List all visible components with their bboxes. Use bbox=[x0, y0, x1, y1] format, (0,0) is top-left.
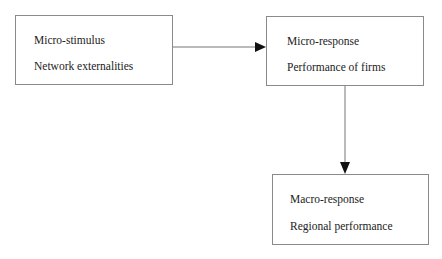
node-micro-stimulus: Micro-stimulus Network externalities bbox=[15, 15, 173, 85]
edge-response-to-macro bbox=[340, 85, 350, 174]
node-title: Macro-response bbox=[290, 193, 364, 205]
arrowhead-right-icon bbox=[255, 42, 266, 52]
node-title: Micro-response bbox=[287, 35, 359, 47]
node-macro-response: Macro-response Regional performance bbox=[272, 174, 429, 245]
node-micro-response: Micro-response Performance of firms bbox=[266, 16, 424, 86]
node-subtitle: Performance of firms bbox=[287, 61, 385, 73]
node-title: Micro-stimulus bbox=[34, 34, 105, 46]
node-subtitle: Regional performance bbox=[290, 220, 393, 232]
arrowhead-down-icon bbox=[340, 162, 350, 174]
node-subtitle: Network externalities bbox=[34, 60, 133, 72]
edge-stimulus-to-response bbox=[172, 42, 266, 52]
